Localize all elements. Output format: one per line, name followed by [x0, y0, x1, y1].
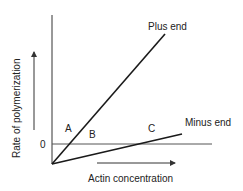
- zero-tick-label: 0: [40, 139, 46, 150]
- actin-polymerization-diagram: 0 Rate of polymerization Actin concentra…: [0, 0, 243, 191]
- point-label-b: B: [89, 129, 96, 140]
- minus-end-label: Minus end: [185, 117, 231, 128]
- plus-end-label: Plus end: [148, 21, 187, 32]
- minus-end-line: [52, 134, 182, 164]
- x-axis-label: Actin concentration: [88, 173, 173, 184]
- y-axis-label: Rate of polymerization: [11, 59, 22, 159]
- point-label-a: A: [65, 123, 72, 134]
- point-label-c: C: [148, 123, 155, 134]
- diagram-svg: 0 Rate of polymerization Actin concentra…: [0, 0, 243, 191]
